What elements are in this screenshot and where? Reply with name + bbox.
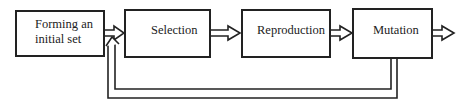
arrow-reproduction-to-mutation (330, 26, 352, 40)
node-label-line2: initial set (35, 32, 81, 47)
node-label: Selection (151, 23, 198, 38)
node-reproduction: Reproduction (241, 9, 331, 58)
node-label: Reproduction (257, 23, 325, 38)
arrow-mutation-output (432, 26, 454, 40)
node-label: Mutation (373, 23, 419, 38)
node-selection: Selection (124, 9, 211, 58)
node-mutation: Mutation (352, 8, 433, 59)
arrow-selection-to-reproduction (210, 26, 240, 40)
node-forming-initial-set: Forming an initial set (15, 10, 105, 57)
node-label-line1: Forming an (35, 17, 93, 32)
